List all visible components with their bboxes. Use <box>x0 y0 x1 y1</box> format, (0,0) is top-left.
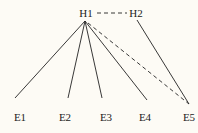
node-h1-label: H1 <box>79 7 92 19</box>
node-e1-label: E1 <box>14 111 26 123</box>
edge-h1-e4 <box>85 21 147 100</box>
node-e5-label: E5 <box>183 111 196 123</box>
edge-h2-e5 <box>137 20 189 104</box>
node-e3-label: E3 <box>100 111 113 123</box>
node-e2-label: E2 <box>59 111 71 123</box>
hypothesis-evidence-diagram: H1 H2 E1 E2 E3 E4 E5 <box>0 0 198 133</box>
node-e4-label: E4 <box>139 111 152 123</box>
edge-h1-e2 <box>68 21 85 98</box>
node-h2-label: H2 <box>129 7 142 19</box>
edge-h1-e5-dashed <box>88 23 189 104</box>
edge-h1-e1 <box>15 21 85 98</box>
